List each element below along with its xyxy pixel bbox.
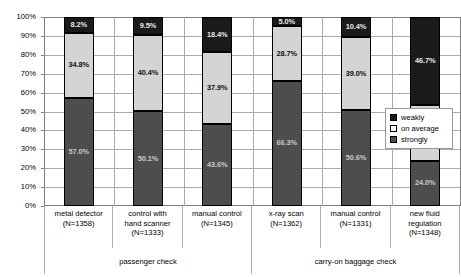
legend-swatch-icon	[390, 114, 397, 121]
y-axis-tick-label: 30%	[21, 145, 36, 153]
category-label-line: (N=1331)	[340, 219, 372, 229]
bar-segment-average[interactable]: 40.4%	[133, 35, 163, 111]
stacked-bar[interactable]: 9.5%40.4%50.1%	[133, 17, 163, 206]
bar-segment-weakly[interactable]: 9.5%	[133, 17, 163, 35]
category-label-line: (N=1348)	[409, 228, 441, 238]
bar-segment-value: 66.3%	[276, 139, 296, 147]
bar-segment-value: 34.8%	[68, 61, 88, 69]
legend-item-weakly[interactable]: weakly	[390, 112, 448, 123]
bar-segment-strongly[interactable]: 50.6%	[341, 110, 371, 206]
bar-segment-weakly[interactable]: 18.4%	[202, 17, 232, 52]
group-label-text: carry-on baggage check	[315, 257, 396, 266]
category-label-0: metal detector(N=1358)	[44, 206, 113, 248]
bar-slot: 5.0%28.7%66.3%	[252, 17, 321, 206]
bar-segment-value: 5.0%	[278, 18, 294, 26]
bar-segment-value: 24.0%	[415, 179, 435, 187]
category-label-line: (N=1345)	[201, 219, 233, 229]
legend-label: strongly	[401, 135, 428, 144]
category-label-line: manual control	[331, 209, 381, 219]
bar-segment-strongly[interactable]: 24.0%	[410, 161, 440, 206]
bar-segment-weakly[interactable]: 5.0%	[272, 17, 302, 26]
category-label-2: manual control(N=1345)	[183, 206, 252, 248]
bar-segment-strongly[interactable]: 57.0%	[64, 98, 94, 206]
group-label-1: carry-on baggage check	[252, 248, 460, 274]
bar-slot: 10.4%39.0%50.6%	[321, 17, 390, 206]
category-label-line: regulation	[408, 219, 441, 229]
stacked-bar[interactable]: 10.4%39.0%50.6%	[341, 17, 371, 206]
bar-segment-average[interactable]: 34.8%	[64, 33, 94, 99]
bar-segment-value: 50.6%	[346, 154, 366, 162]
y-axis-tick-label: 70%	[21, 70, 36, 78]
category-label-line: x-ray scan	[269, 209, 304, 219]
category-label-1: control withhand scanner(N=1333)	[113, 206, 182, 248]
category-label-line: (N=1358)	[63, 219, 95, 229]
category-label-3: x-ray scan(N=1362)	[252, 206, 321, 248]
bar-segment-strongly[interactable]: 43.6%	[202, 124, 232, 206]
group-axis: passenger checkcarry-on baggage check	[44, 248, 460, 274]
bar-slot: 8.2%34.8%57.0%	[44, 17, 113, 206]
category-label-line: hand scanner	[124, 219, 170, 229]
bar-segment-strongly[interactable]: 50.1%	[133, 111, 163, 206]
y-axis-tick-label: 90%	[21, 32, 36, 40]
y-axis-tick-label: 10%	[21, 183, 36, 191]
bar-slot: 9.5%40.4%50.1%	[113, 17, 182, 206]
group-label-text: passenger check	[119, 257, 176, 266]
stacked-bar[interactable]: 5.0%28.7%66.3%	[272, 17, 302, 206]
bar-segment-value: 18.4%	[207, 31, 227, 39]
y-axis-tick-label: 0%	[25, 202, 36, 210]
stacked-bar[interactable]: 8.2%34.8%57.0%	[64, 17, 94, 206]
group-label-0: passenger check	[44, 248, 252, 274]
y-axis-tick-label: 40%	[21, 126, 36, 134]
bar-segment-average[interactable]: 39.0%	[341, 37, 371, 111]
category-label-4: manual control(N=1331)	[321, 206, 390, 248]
category-label-line: control with	[128, 209, 166, 219]
legend-label: weakly	[401, 113, 424, 122]
legend-swatch-icon	[390, 125, 397, 132]
bar-segment-weakly[interactable]: 46.7%	[410, 17, 440, 105]
bar-segment-value: 50.1%	[138, 155, 158, 163]
bar-slot: 18.4%37.9%43.6%	[183, 17, 252, 206]
bar-segment-value: 28.7%	[276, 50, 296, 58]
legend-swatch-icon	[390, 136, 397, 143]
legend-label: on average	[401, 124, 439, 133]
y-axis-tick-label: 20%	[21, 164, 36, 172]
y-axis-tick-label: 60%	[21, 89, 36, 97]
bar-segment-average[interactable]: 28.7%	[272, 26, 302, 80]
legend-item-strongly[interactable]: strongly	[390, 134, 448, 145]
legend: weaklyon averagestrongly	[385, 108, 453, 149]
category-label-5: new fluidregulation(N=1348)	[391, 206, 460, 248]
y-axis: 0%10%20%30%40%50%60%70%80%90%100%	[0, 0, 42, 208]
category-label-line: (N=1362)	[270, 219, 302, 229]
bar-segment-value: 57.0%	[68, 148, 88, 156]
y-axis-tick-label: 100%	[17, 13, 36, 21]
bar-segment-strongly[interactable]: 66.3%	[272, 81, 302, 206]
category-label-line: metal detector	[55, 209, 103, 219]
bar-segment-weakly[interactable]: 10.4%	[341, 17, 371, 37]
category-label-line: new fluid	[410, 209, 440, 219]
stacked-bar[interactable]: 18.4%37.9%43.6%	[202, 17, 232, 206]
category-label-line: manual control	[192, 209, 242, 219]
bar-segment-value: 40.4%	[138, 69, 158, 77]
bar-segment-value: 39.0%	[346, 70, 366, 78]
bar-segment-value: 10.4%	[346, 23, 366, 31]
y-axis-tick-label: 50%	[21, 108, 36, 116]
bar-segment-value: 8.2%	[70, 21, 86, 29]
y-axis-tick-label: 80%	[21, 51, 36, 59]
bar-segment-weakly[interactable]: 8.2%	[64, 17, 94, 32]
bar-segment-value: 9.5%	[140, 22, 156, 30]
category-label-line: (N=1333)	[132, 228, 164, 238]
bar-segment-value: 43.6%	[207, 161, 227, 169]
bar-segment-average[interactable]: 37.9%	[202, 52, 232, 124]
bar-segment-value: 46.7%	[415, 57, 435, 65]
legend-item-average[interactable]: on average	[390, 123, 448, 134]
category-axis: metal detector(N=1358)control withhand s…	[44, 206, 460, 248]
bar-segment-value: 37.9%	[207, 84, 227, 92]
